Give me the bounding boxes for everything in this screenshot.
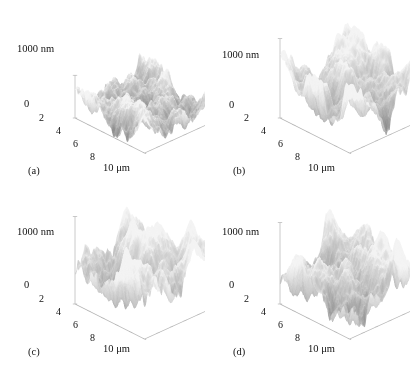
z-axis-min-label-a: 0: [24, 99, 29, 110]
z-axis-max-label-a: 1000 nm: [17, 44, 54, 55]
x-axis-end-label-b: 10 μm: [308, 163, 335, 174]
x-axis-tick-8-a: 8: [90, 152, 95, 162]
panel-b: 1000 nm 0 2 4 6 8 10 μm (b): [205, 0, 410, 185]
panel-a: 1000 nm 0 2 4 6 8 10 μm (a): [0, 0, 205, 185]
x-axis-tick-8-d: 8: [295, 333, 300, 343]
z-axis-max-label-c: 1000 nm: [17, 227, 54, 238]
x-axis-tick-4-d: 4: [261, 307, 266, 317]
z-axis-min-label-d: 0: [229, 280, 234, 291]
panel-label-b: (b): [233, 166, 245, 177]
panel-label-c: (c): [28, 347, 40, 358]
x-axis-tick-8-b: 8: [295, 152, 300, 162]
panel-label-a: (a): [28, 166, 40, 177]
x-axis-tick-6-a: 6: [73, 139, 78, 149]
x-axis-tick-4-a: 4: [56, 126, 61, 136]
panel-c: 1000 nm 0 2 4 6 8 10 μm (c): [0, 186, 205, 371]
x-axis-tick-8-c: 8: [90, 333, 95, 343]
x-axis-tick-6-d: 6: [278, 320, 283, 330]
x-axis-tick-4-b: 4: [261, 126, 266, 136]
x-axis-tick-2-c: 2: [39, 294, 44, 304]
surface-plot-b: [205, 0, 410, 185]
x-axis-tick-6-b: 6: [278, 139, 283, 149]
x-axis-tick-6-c: 6: [73, 320, 78, 330]
x-axis-tick-4-c: 4: [56, 307, 61, 317]
surface-plot-a: [0, 0, 205, 185]
z-axis-max-label-d: 1000 nm: [222, 227, 259, 238]
x-axis-tick-2-a: 2: [39, 113, 44, 123]
x-axis-tick-2-d: 2: [244, 294, 249, 304]
z-axis-min-label-b: 0: [229, 100, 234, 111]
z-axis-max-label-b: 1000 nm: [222, 50, 259, 61]
x-axis-end-label-d: 10 μm: [308, 344, 335, 355]
panel-d: 1000 nm 0 2 4 6 8 10 μm (d): [205, 186, 410, 371]
z-axis-min-label-c: 0: [24, 280, 29, 291]
x-axis-end-label-a: 10 μm: [103, 163, 130, 174]
afm-surface-figure: 1000 nm 0 2 4 6 8 10 μm (a) 1000 nm 0 2 …: [0, 0, 410, 371]
x-axis-tick-2-b: 2: [244, 113, 249, 123]
panel-label-d: (d): [233, 347, 245, 358]
x-axis-end-label-c: 10 μm: [103, 344, 130, 355]
